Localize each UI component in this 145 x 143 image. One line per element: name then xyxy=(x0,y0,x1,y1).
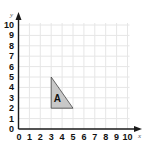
y-tick-label: 0 xyxy=(9,124,14,134)
y-axis-arrow-icon xyxy=(16,12,22,20)
y-tick-label: 1 xyxy=(9,114,14,124)
x-tick-label: 4 xyxy=(60,132,65,142)
x-tick-label: 0 xyxy=(16,132,21,142)
grid-lines xyxy=(19,23,130,129)
x-tick-labels: 012345678910 xyxy=(16,132,132,142)
x-tick-label: 9 xyxy=(114,132,119,142)
x-tick-label: 3 xyxy=(49,132,54,142)
y-tick-label: 5 xyxy=(9,72,14,82)
x-tick-label: 8 xyxy=(103,132,108,142)
x-tick-label: 6 xyxy=(81,132,86,142)
y-tick-label: 3 xyxy=(9,93,14,103)
x-tick-label: 7 xyxy=(92,132,97,142)
y-tick-label: 10 xyxy=(4,20,14,30)
x-axis-label: x xyxy=(137,132,142,140)
x-tick-label: 2 xyxy=(38,132,43,142)
y-axis-label: y xyxy=(9,11,14,19)
y-tick-label: 9 xyxy=(9,30,14,40)
y-tick-label: 7 xyxy=(9,51,14,61)
y-tick-label: 8 xyxy=(9,41,14,51)
shape-label: A xyxy=(54,93,61,104)
x-tick-label: 10 xyxy=(122,132,132,142)
x-tick-label: 1 xyxy=(27,132,32,142)
y-tick-label: 2 xyxy=(9,103,14,113)
x-tick-label: 5 xyxy=(70,132,75,142)
y-tick-label: 4 xyxy=(9,82,14,92)
coordinate-grid: A x y 012345678910 012345678910 xyxy=(0,0,145,143)
y-tick-label: 6 xyxy=(9,62,14,72)
y-tick-labels: 012345678910 xyxy=(4,20,14,134)
